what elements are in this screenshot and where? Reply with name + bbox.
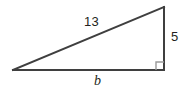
right-triangle-figure: 13 5 b (0, 0, 187, 93)
right-angle-marker-icon (156, 62, 164, 70)
hypotenuse-length-label: 13 (84, 15, 99, 28)
base-leg-length-label: b (94, 74, 101, 88)
vertical-leg-length-label: 5 (171, 30, 178, 43)
